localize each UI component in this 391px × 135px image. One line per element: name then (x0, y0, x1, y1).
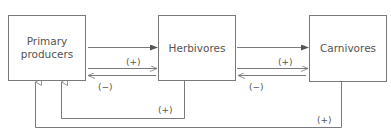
node-label: producers (21, 48, 74, 61)
node-carnivores: Carnivores (309, 15, 387, 82)
edge-label-carnivores-loop-positive: (+) (317, 115, 332, 125)
node-primary-producers: Primary producers (8, 15, 86, 81)
node-label: Herbivores (169, 42, 226, 55)
edge-label-herbivores-carnivores-positive: (+) (278, 57, 293, 67)
node-label: Carnivores (320, 42, 376, 55)
node-label: Primary (21, 35, 74, 48)
edge-label-herbivores-loop-positive: (+) (158, 105, 173, 115)
loop-carnivores-to-primary (36, 81, 342, 128)
node-herbivores: Herbivores (158, 15, 236, 81)
edge-label-herbivores-primary-negative: (−) (98, 82, 113, 92)
edge-label-primary-herbivores-positive: (+) (126, 57, 141, 67)
edge-label-carnivores-herbivores-negative: (−) (249, 82, 264, 92)
